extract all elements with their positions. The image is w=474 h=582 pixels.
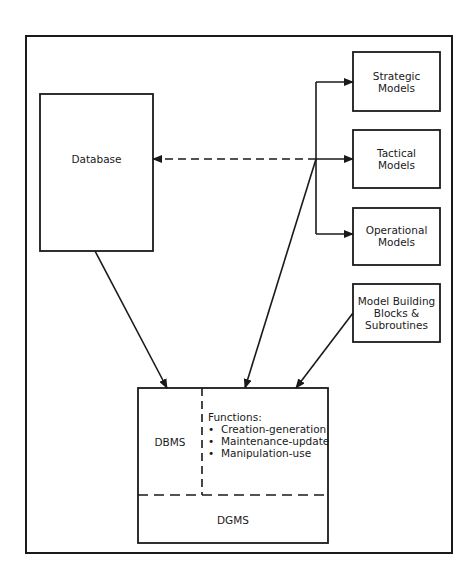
tactical-line1: Tactical: [353, 147, 440, 159]
tactical-models-label: Tactical Models: [353, 147, 440, 171]
strategic-models-label: Strategic Models: [353, 70, 440, 94]
functions-title: Functions:: [208, 411, 329, 423]
function-item: • Maintenance-update: [208, 435, 329, 447]
strategic-line2: Models: [353, 82, 440, 94]
dbms-label: DBMS: [138, 436, 202, 448]
function-item: • Manipulation-use: [208, 447, 329, 459]
edge-database-dbms: [95, 251, 167, 388]
database-label: Database: [40, 153, 153, 165]
model-building-label: Model Building Blocks & Subroutines: [353, 295, 440, 331]
operational-line2: Models: [353, 236, 440, 248]
functions-list: Functions: • Creation-generation • Maint…: [208, 411, 329, 459]
bullet-icon: •: [208, 447, 214, 459]
model-building-line2: Blocks &: [353, 307, 440, 319]
function-item: • Creation-generation: [208, 423, 329, 435]
model-building-line3: Subroutines: [353, 319, 440, 331]
strategic-line1: Strategic: [353, 70, 440, 82]
edge-hub-dbms: [245, 159, 316, 388]
operational-line1: Operational: [353, 224, 440, 236]
bullet-icon: •: [208, 423, 214, 435]
edge-modelbuilding-dbms: [296, 313, 353, 388]
database-box: [40, 94, 153, 251]
model-building-line1: Model Building: [353, 295, 440, 307]
tactical-line2: Models: [353, 159, 440, 171]
operational-models-label: Operational Models: [353, 224, 440, 248]
dgms-label: DGMS: [138, 514, 328, 526]
bullet-icon: •: [208, 435, 214, 447]
